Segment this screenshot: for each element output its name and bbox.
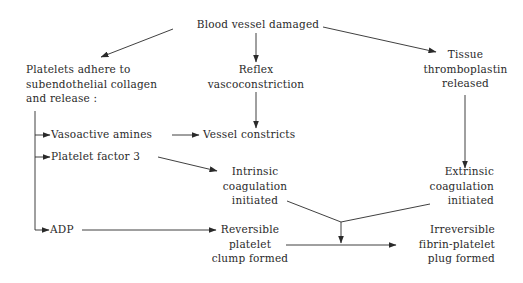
node-reversible: Reversible platelet clump formed (205, 222, 295, 266)
node-platelets-adhere: Platelets adhere to subendothelial colla… (26, 62, 157, 106)
edge-platelets-trunk (35, 111, 38, 230)
node-text: fibrin-platelet (395, 237, 495, 252)
node-text: plug formed (395, 251, 495, 266)
node-text: Reversible (205, 222, 295, 237)
node-text: Vessel constricts (203, 127, 295, 142)
node-text: Vasoactive amines (51, 127, 152, 142)
node-text: released (398, 76, 523, 91)
node-text: initiated (400, 193, 494, 208)
node-text: platelet (205, 237, 295, 252)
node-text: Irreversible (395, 222, 495, 237)
node-platelet-factor-3: Platelet factor 3 (51, 149, 140, 164)
node-vasoactive-amines: Vasoactive amines (51, 127, 152, 142)
node-text: Platelets adhere to (26, 62, 157, 77)
node-text: coagulation (400, 179, 494, 194)
node-text: initiated (210, 193, 300, 208)
node-text: vascoconstriction (196, 77, 316, 92)
node-irreversible: Irreversible fibrin-platelet plug formed (395, 222, 495, 266)
node-blood-vessel-damaged: Blood vessel damaged (178, 17, 338, 32)
node-text: clump formed (205, 251, 295, 266)
node-intrinsic: Intrinsic coagulation initiated (210, 164, 300, 208)
node-text: Tissue (398, 47, 523, 62)
node-text: subendothelial collagen (26, 77, 157, 92)
node-text: thromboplastin (398, 62, 523, 77)
node-text: and release : (26, 91, 157, 106)
node-reflex: Reflex vascoconstriction (196, 62, 316, 91)
node-vessel-constricts: Vessel constricts (203, 127, 295, 142)
node-adp: ADP (50, 222, 74, 237)
node-text: Blood vessel damaged (178, 17, 338, 32)
node-text: ADP (50, 222, 74, 237)
node-text: coagulation (210, 179, 300, 194)
node-text: Intrinsic (210, 164, 300, 179)
edge-damaged-to-platelets (101, 29, 173, 57)
node-text: Platelet factor 3 (51, 149, 140, 164)
node-text: Extrinsic (400, 164, 494, 179)
edge-pf3-to-intrinsic (158, 157, 217, 171)
node-tissue-thromboplastin: Tissue thromboplastin released (398, 47, 523, 91)
node-text: Reflex (196, 62, 316, 77)
node-extrinsic: Extrinsic coagulation initiated (400, 164, 494, 208)
